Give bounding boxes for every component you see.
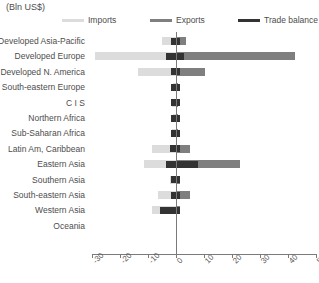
bar-exports: [176, 68, 205, 76]
y-axis-category-label: Sub-Saharan Africa: [11, 128, 85, 138]
y-axis-category-label: Oceania: [53, 221, 85, 231]
y-axis-category-label: Western Asia: [35, 205, 85, 215]
x-axis: -30-20-1001020304050: [0, 254, 319, 283]
y-axis-category-label: Latin Am, Caribbean: [8, 144, 85, 154]
y-axis-category-label: C I S: [66, 98, 85, 108]
bar-imports: [95, 52, 176, 60]
unit-label: (Bln US$): [6, 2, 45, 12]
y-axis-category-label: Eastern Asia: [37, 159, 85, 169]
zero-reference-line: [176, 32, 177, 258]
legend-item-exports[interactable]: Exports: [150, 14, 205, 26]
chart-legend: ImportsExportsTrade balance: [62, 14, 318, 26]
y-axis-category-label: Southern Asia: [32, 175, 85, 185]
y-axis-category-label: Developed Europe: [15, 51, 85, 61]
y-axis-category-label: South-eastern Asia: [13, 190, 85, 200]
y-axis-category-label: Developed N. America: [0, 67, 85, 77]
y-axis-category-label: Developed Asia-Pacific: [0, 36, 85, 46]
bar-exports: [176, 52, 295, 60]
legend-label: Exports: [176, 15, 205, 25]
bar-balance: [160, 207, 180, 214]
y-axis-category-label: Northern Africa: [28, 113, 85, 123]
legend-swatch-icon: [150, 19, 172, 22]
legend-item-imports[interactable]: Imports: [62, 14, 116, 26]
y-axis-category-label: South-eastern Europe: [2, 82, 85, 92]
bars-layer: [0, 30, 319, 255]
legend-swatch-icon: [62, 19, 84, 22]
bar-balance: [166, 161, 198, 168]
plot-area: Developed Asia-PacificDeveloped EuropeDe…: [0, 30, 319, 255]
legend-label: Imports: [88, 15, 116, 25]
legend-label: Trade balance: [264, 15, 318, 25]
x-axis-tick-label: 0: [175, 256, 185, 266]
legend-swatch-icon: [238, 19, 260, 22]
legend-item-trade-balance[interactable]: Trade balance: [238, 14, 318, 26]
